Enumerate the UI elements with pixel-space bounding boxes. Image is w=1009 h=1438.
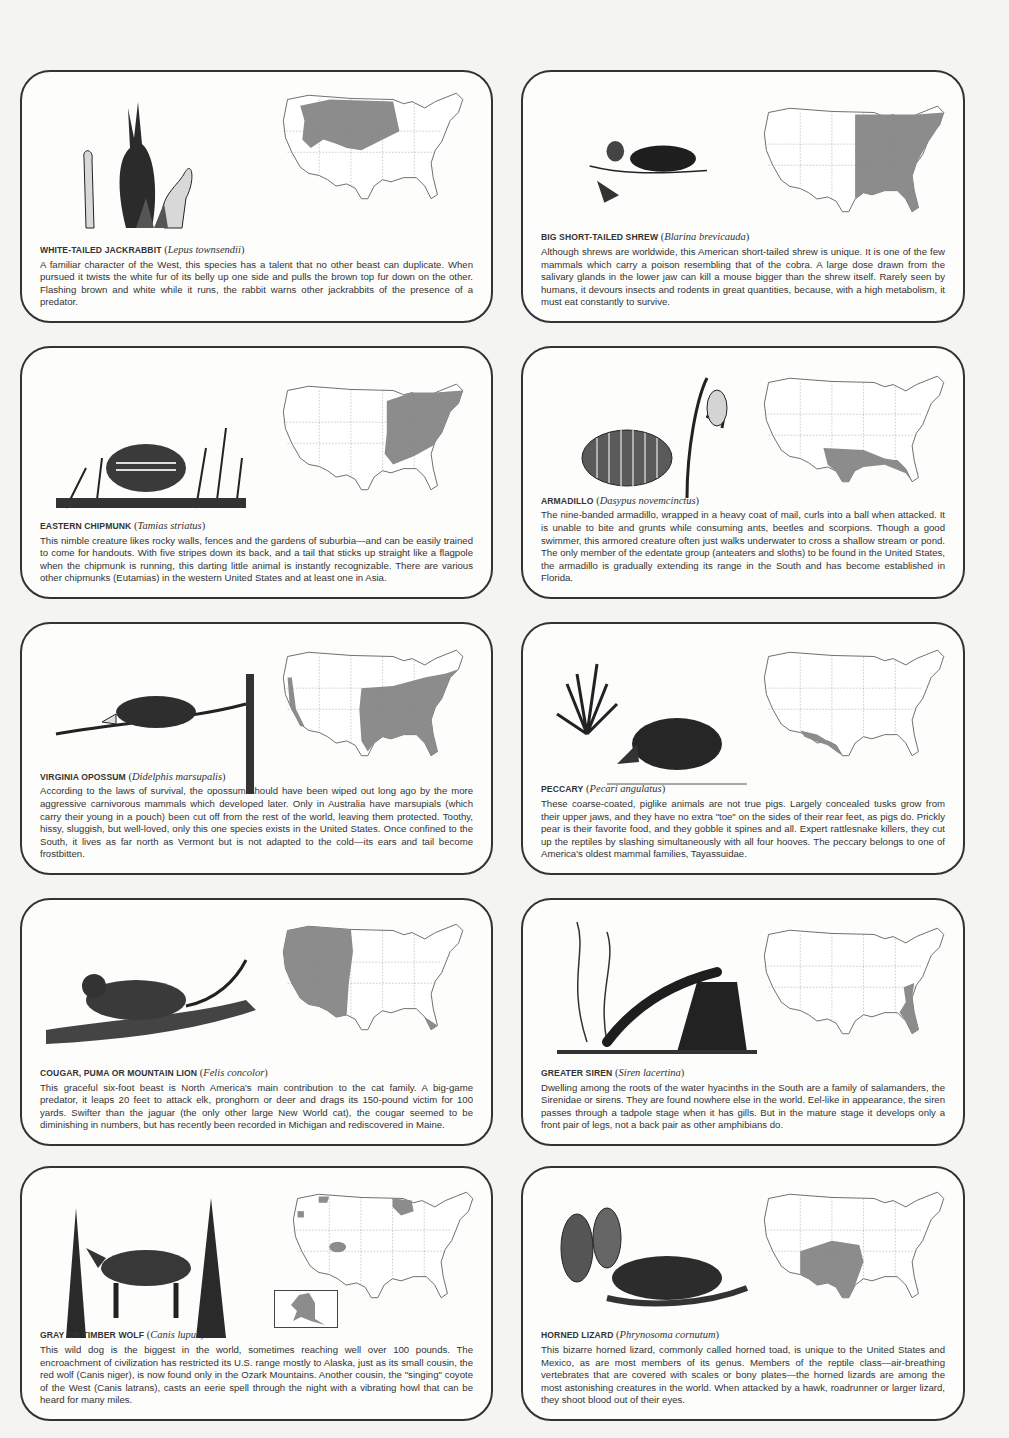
latin-name: Tamias striatus: [138, 520, 202, 531]
common-name: EASTERN CHIPMUNK: [40, 521, 131, 531]
card-cougar: COUGAR, PUMA OR MOUNTAIN LION (Felis con…: [20, 898, 493, 1146]
armadillo-illustration: [547, 358, 757, 508]
range-map-chipmunk: [277, 378, 467, 498]
description: The nine-banded armadillo, wrapped in a …: [541, 509, 945, 585]
range-map-opossum: [277, 644, 467, 764]
description: This nimble creature likes rocky walls, …: [40, 535, 473, 585]
peccary-illustration: [547, 644, 757, 794]
common-name: PECCARY: [541, 784, 583, 794]
common-name: COUGAR, PUMA OR MOUNTAIN LION: [40, 1068, 197, 1078]
common-name: GRAY OR TIMBER WOLF: [40, 1330, 144, 1340]
card-shrew: BIG SHORT-TAILED SHREW (Blarina brevicau…: [521, 70, 965, 323]
common-name: GREATER SIREN: [541, 1068, 612, 1078]
description: This bizarre horned lizard, commonly cal…: [541, 1344, 945, 1407]
latin-name: Blarina brevicauda: [664, 231, 746, 242]
latin-name: Didelphis marsupalis: [132, 771, 222, 782]
latin-name: Dasypus novemcinctus: [600, 495, 696, 506]
range-map-peccary: [758, 644, 948, 764]
caption-horned-lizard: HORNED LIZARD (Phrynosoma cornutum) This…: [541, 1329, 945, 1407]
caption-jackrabbit: WHITE-TAILED JACKRABBIT (Lepus townsendi…: [40, 244, 473, 309]
card-chipmunk: EASTERN CHIPMUNK (Tamias striatus) This …: [20, 346, 493, 599]
caption-opossum: VIRGINIA OPOSSUM (Didelphis marsupalis) …: [40, 771, 473, 861]
range-map-siren: [758, 922, 948, 1042]
description: These coarse-coated, piglike animals are…: [541, 798, 945, 861]
caption-siren: GREATER SIREN (Siren lacertina) Dwelling…: [541, 1067, 945, 1132]
description: A familiar character of the West, this s…: [40, 259, 473, 309]
description: According to the laws of survival, the o…: [40, 785, 473, 861]
card-opossum: VIRGINIA OPOSSUM (Didelphis marsupalis) …: [20, 622, 493, 875]
latin-name: Phrynosoma cornutum: [620, 1329, 716, 1340]
common-name: HORNED LIZARD: [541, 1330, 613, 1340]
latin-name: Felis concolor: [203, 1067, 264, 1078]
card-siren: GREATER SIREN (Siren lacertina) Dwelling…: [521, 898, 965, 1146]
card-horned-lizard: HORNED LIZARD (Phrynosoma cornutum) This…: [521, 1166, 965, 1421]
description: Although shrews are worldwide, this Amer…: [541, 246, 945, 309]
chipmunk-illustration: [46, 368, 256, 518]
description: This wild dog is the biggest in the worl…: [40, 1344, 473, 1407]
horned-lizard-illustration: [547, 1188, 757, 1338]
jackrabbit-illustration: [46, 88, 256, 238]
latin-name: Lepus townsendii: [168, 244, 241, 255]
card-jackrabbit: WHITE-TAILED JACKRABBIT (Lepus townsendi…: [20, 70, 493, 323]
card-wolf: GRAY OR TIMBER WOLF (Canis lupus) This w…: [20, 1166, 493, 1421]
caption-peccary: PECCARY (Pecari angulatus) These coarse-…: [541, 783, 945, 861]
cougar-illustration: [46, 920, 256, 1070]
card-peccary: PECCARY (Pecari angulatus) These coarse-…: [521, 622, 965, 875]
latin-name: Canis lupus: [150, 1329, 200, 1340]
range-map-horned-lizard: [758, 1186, 948, 1306]
range-map-shrew: [758, 100, 948, 220]
description: Dwelling among the roots of the water hy…: [541, 1082, 945, 1132]
common-name: VIRGINIA OPOSSUM: [40, 772, 126, 782]
latin-name: Pecari angulatus: [590, 783, 662, 794]
common-name: BIG SHORT-TAILED SHREW: [541, 232, 658, 242]
range-map-jackrabbit: [277, 87, 467, 207]
range-map-wolf: [287, 1186, 477, 1306]
alaska-inset: [274, 1290, 338, 1328]
card-armadillo: ARMADILLO (Dasypus novemcinctus) The nin…: [521, 346, 965, 599]
wolf-illustration: [46, 1188, 256, 1338]
caption-cougar: COUGAR, PUMA OR MOUNTAIN LION (Felis con…: [40, 1067, 473, 1132]
caption-wolf: GRAY OR TIMBER WOLF (Canis lupus) This w…: [40, 1329, 473, 1407]
alaska-range-map: [275, 1291, 337, 1327]
description: This graceful six-foot beast is North Am…: [40, 1082, 473, 1132]
common-name: WHITE-TAILED JACKRABBIT: [40, 245, 162, 255]
latin-name: Siren lacertina: [619, 1067, 681, 1078]
range-map-cougar: [277, 918, 467, 1038]
common-name: ARMADILLO: [541, 496, 593, 506]
caption-armadillo: ARMADILLO (Dasypus novemcinctus) The nin…: [541, 495, 945, 585]
caption-chipmunk: EASTERN CHIPMUNK (Tamias striatus) This …: [40, 520, 473, 585]
range-map-armadillo: [758, 370, 948, 490]
shrew-illustration: [547, 122, 757, 232]
caption-shrew: BIG SHORT-TAILED SHREW (Blarina brevicau…: [541, 231, 945, 309]
siren-illustration: [547, 912, 757, 1062]
